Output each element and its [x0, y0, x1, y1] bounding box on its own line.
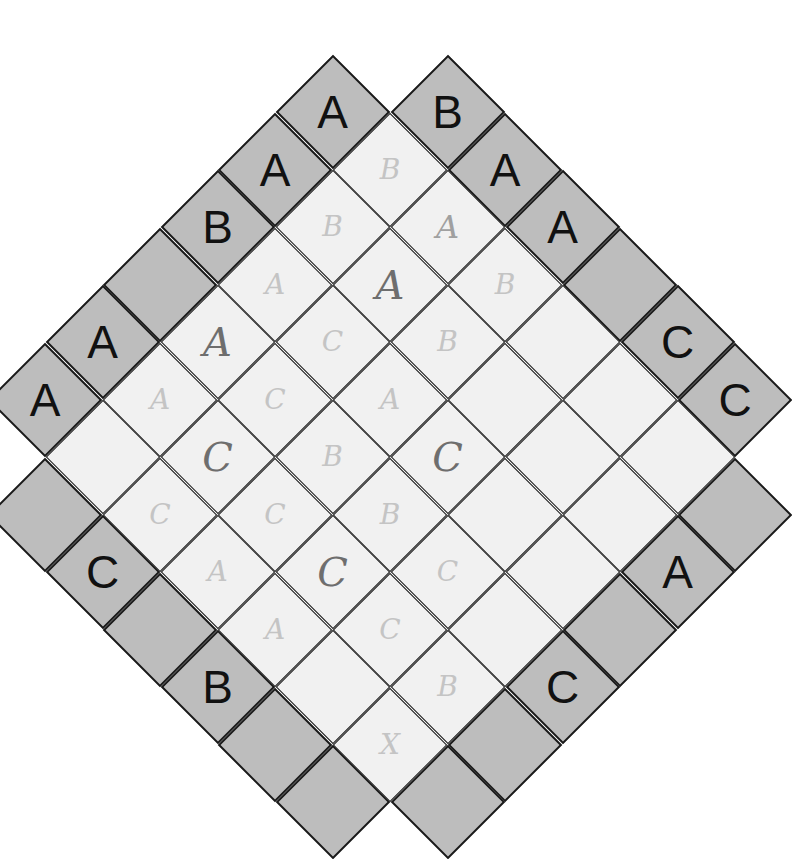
puzzle-board: ABAACABABCACACBABBABACACACBBCACCCCAACBX — [0, 0, 784, 813]
